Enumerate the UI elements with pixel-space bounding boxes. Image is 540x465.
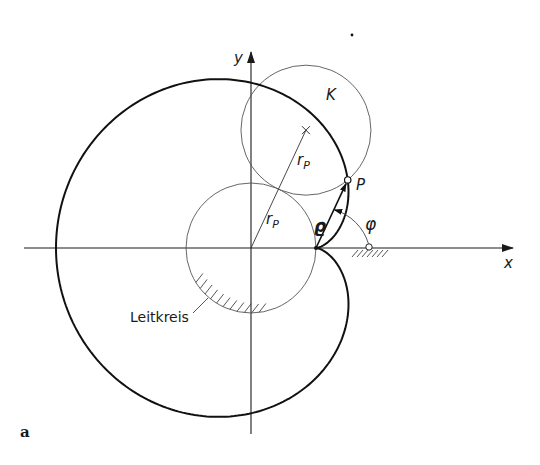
hatching-hinge xyxy=(352,250,388,257)
point-p-icon xyxy=(345,177,351,183)
leitkreis-label: Leitkreis xyxy=(130,309,189,325)
rho-label: ϱ xyxy=(314,216,327,236)
phi-tick xyxy=(335,210,336,211)
radius-lower-label: rP xyxy=(266,210,279,231)
stray-dot xyxy=(351,34,354,37)
panel-label: a xyxy=(20,423,30,441)
radius-upper-label: rP xyxy=(297,151,310,172)
hatching-leitkreis xyxy=(196,273,266,313)
cardioid-diagram: x y K rP rP P ϱ φ Leitkreis a xyxy=(0,0,540,465)
x-axis-label: x xyxy=(503,254,513,272)
cusp-point xyxy=(314,246,318,250)
leitkreis-leader xyxy=(193,298,208,313)
hinge-point-icon xyxy=(366,244,372,250)
point-p-label: P xyxy=(356,176,366,194)
rolling-circle-label: K xyxy=(326,86,337,104)
phi-label: φ xyxy=(365,214,377,234)
y-axis-label: y xyxy=(233,49,244,67)
